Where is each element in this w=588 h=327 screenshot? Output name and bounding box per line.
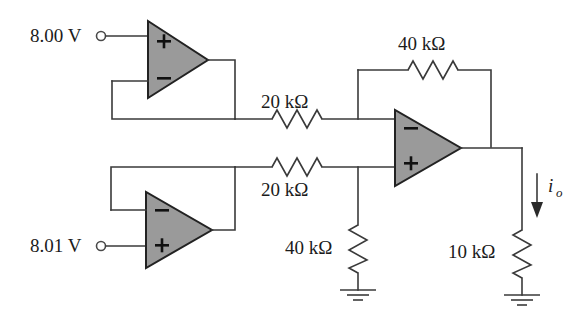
source-label-v1: 8.00 V <box>30 25 82 46</box>
wire-opamp1-feedback <box>112 81 235 119</box>
circuit-diagram: 8.00 V 20 kΩ 40 kΩ 8.01 <box>0 0 588 327</box>
output-current-arrow <box>531 174 543 218</box>
resistor-label-r-input-top-20k: 20 kΩ <box>261 91 308 112</box>
wire-opamp2-feedback <box>111 167 235 210</box>
resistor-r-input-bottom-20k <box>272 158 322 176</box>
resistor-label-r-shunt-40k: 40 kΩ <box>285 237 332 258</box>
resistor-label-r-input-bottom-20k: 20 kΩ <box>261 179 308 200</box>
resistor-r-input-top-20k <box>272 110 322 128</box>
wire-feedback-right-to-output <box>458 70 491 147</box>
resistor-r-shunt-40k <box>349 225 367 273</box>
resistor-r-feedback-40k <box>408 61 458 79</box>
ground-load <box>504 295 540 305</box>
wire-opamp1-output <box>208 60 235 119</box>
source-label-v2: 8.01 V <box>30 235 82 256</box>
circuit-svg: 8.00 V 20 kΩ 40 kΩ 8.01 <box>0 0 588 327</box>
opamp-right-minus-sign <box>404 127 418 130</box>
opamp-top-left-minus-sign <box>157 77 171 80</box>
resistor-r-load-10k <box>513 230 531 278</box>
input-terminal-circle-v1 <box>97 32 106 41</box>
input-terminal-circle-v2 <box>97 242 106 251</box>
resistor-label-r-load-10k: 10 kΩ <box>448 241 495 262</box>
opamp-bottom-left-body <box>146 192 212 268</box>
opamp-bottom-left-minus-sign <box>155 209 169 212</box>
opamp-top-left-body <box>148 21 208 98</box>
resistor-label-r-feedback-40k: 40 kΩ <box>398 33 445 54</box>
ground-shunt <box>340 290 376 300</box>
current-subscript: o <box>556 185 563 200</box>
current-symbol: i <box>548 175 553 196</box>
wire-opamp2-output <box>212 167 235 230</box>
opamp-right-body <box>395 110 461 186</box>
